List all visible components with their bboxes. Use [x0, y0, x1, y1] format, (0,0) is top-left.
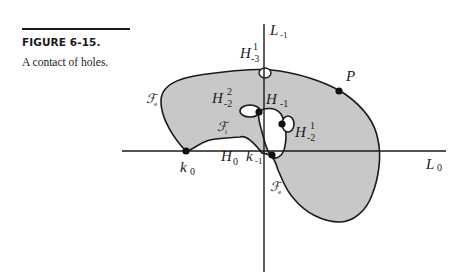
svg-text:H: H — [220, 148, 233, 164]
point-k0 — [182, 147, 189, 154]
svg-text:e: e — [278, 188, 281, 196]
svg-text:-2: -2 — [224, 98, 232, 109]
svg-text:H: H — [211, 90, 224, 106]
svg-text:2: 2 — [227, 86, 232, 97]
svg-text:k: k — [180, 159, 187, 175]
svg-text:0: 0 — [233, 156, 238, 167]
label-l0: L 0 — [425, 156, 442, 173]
svg-text:e: e — [154, 100, 157, 108]
svg-text:H: H — [265, 91, 278, 107]
svg-text:H: H — [294, 124, 307, 140]
label-k0: k 0 — [180, 159, 195, 177]
svg-text:-1: -1 — [280, 98, 288, 109]
label-h-minus-2-sup-1: H 1 -2 — [294, 120, 315, 143]
svg-text:-1: -1 — [280, 30, 288, 40]
svg-text:-1: -1 — [255, 156, 263, 166]
point-h-minus-2-contact — [278, 120, 285, 127]
point-h-minus-1-contact — [255, 108, 262, 115]
label-f-e-bottom: ℱ e — [270, 179, 283, 196]
svg-text:P: P — [345, 68, 355, 84]
label-p: P — [345, 68, 355, 84]
svg-text:i: i — [225, 128, 227, 136]
svg-text:0: 0 — [437, 162, 442, 173]
svg-text:-2: -2 — [307, 132, 315, 143]
svg-text:k: k — [246, 148, 253, 164]
label-h-minus-2-sup-2: H 2 -2 — [211, 86, 232, 109]
svg-text:L: L — [425, 156, 434, 172]
holes-diagram: L -1 L 0 H 1 -3 H 2 -2 H -1 H 1 -2 H 0 k… — [0, 0, 465, 274]
point-k-minus-1 — [268, 151, 275, 158]
point-p — [335, 87, 342, 94]
svg-text:L: L — [269, 22, 278, 38]
svg-text:-3: -3 — [251, 53, 259, 64]
label-f-e-top: ℱ e — [146, 91, 159, 108]
label-h-minus-3-sup-1: H 1 -3 — [239, 41, 259, 64]
svg-text:1: 1 — [310, 120, 315, 131]
label-l-minus-1: L -1 — [269, 22, 288, 40]
hole-h-minus-3 — [259, 68, 271, 78]
svg-text:1: 1 — [253, 41, 258, 52]
svg-text:0: 0 — [190, 166, 195, 177]
